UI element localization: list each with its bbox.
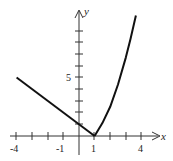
x-axis-label: x <box>160 130 166 142</box>
x-tick-label-4: 4 <box>138 143 143 154</box>
function-graph: x y -4 -1 1 4 5 <box>0 0 173 161</box>
right-curve-piece <box>95 16 136 137</box>
x-tick-label-1: 1 <box>91 143 96 154</box>
y-tick-label-5: 5 <box>66 72 71 83</box>
left-linear-piece <box>17 78 95 137</box>
y-axis-label: y <box>83 5 89 17</box>
x-tick-label-neg4: -4 <box>10 143 18 154</box>
x-tick-label-neg1: -1 <box>56 143 64 154</box>
